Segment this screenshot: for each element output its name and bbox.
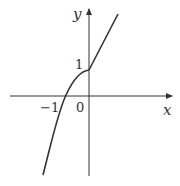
x-axis-label: x bbox=[163, 101, 172, 119]
origin-label: 0 bbox=[76, 100, 84, 115]
line-right bbox=[89, 14, 118, 70]
curve-left bbox=[43, 70, 89, 175]
function-graph: y x 1 −1 0 bbox=[0, 0, 180, 186]
y-axis-label: y bbox=[72, 5, 82, 23]
tick-label-y-1: 1 bbox=[75, 57, 83, 72]
tick-label-x-neg1: −1 bbox=[40, 100, 59, 115]
